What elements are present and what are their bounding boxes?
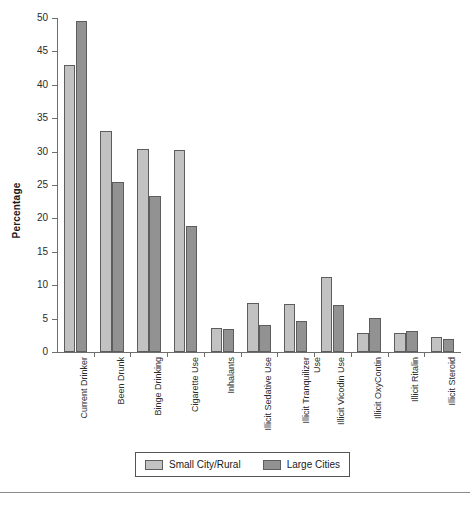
bar [284,304,296,352]
bar [223,329,235,352]
bar [333,305,345,352]
x-axis-tick-label: Binge Drinking [153,357,167,447]
x-axis-tick-label: Illicit Vicodin Use [336,357,350,447]
chart-legend: Small City/Rural Large Cities [135,452,350,477]
y-axis-tick: 35 [52,118,57,119]
bar [369,318,381,352]
y-axis-tick: 30 [52,152,57,153]
x-axis-tick-label: Been Drunk [116,357,130,447]
footer-divider [0,492,470,493]
x-axis-tick [351,352,352,357]
legend-item-large-cities: Large Cities [263,459,340,471]
y-axis-tick: 20 [52,218,57,219]
x-axis-tick-label-line: Illicit Ritalin [410,357,420,402]
y-axis-line [57,18,58,352]
y-axis-tick-label: 15 [37,245,48,258]
x-axis-tick [167,352,168,357]
x-axis-tick-label-line: Illicit Steroid [447,357,457,406]
x-axis-tick-label: Illicit TranquilizerUse [301,357,315,447]
bar [259,325,271,352]
y-axis-tick-label: 40 [37,78,48,91]
y-axis-tick: 40 [52,85,57,86]
bar [149,196,161,352]
y-axis-tick-label: 30 [37,145,48,158]
bar-group [137,18,161,352]
x-axis-tick-label-line: Cigarette Use [190,357,200,412]
bar [321,277,333,352]
bar [247,303,259,352]
x-axis-tick-label-line: Inhalants [226,357,236,394]
x-axis-tick-label-line: Use [312,357,323,447]
x-axis-tick-label-line: Current Drinker [79,357,89,419]
x-axis-tick-label: Illicit Steroid [447,357,461,447]
x-axis-tick-label: Illicit Sedative Use [263,357,277,447]
bar-group [321,18,345,352]
x-axis-tick-label: Inhalants [226,357,240,447]
y-axis-tick: 0 [52,352,57,353]
x-axis-tick-label: Cigarette Use [190,357,204,447]
bar-group [211,18,235,352]
y-axis-tick: 15 [52,252,57,253]
y-axis-tick-label: 20 [37,211,48,224]
y-axis-tick-label: 35 [37,111,48,124]
legend-label: Small City/Rural [169,459,241,471]
x-axis-tick [130,352,131,357]
y-axis-tick-label: 10 [37,278,48,291]
x-axis-tick [204,352,205,357]
x-axis-tick [94,352,95,357]
y-axis-tick: 45 [52,51,57,52]
bar [100,131,112,352]
bar [357,333,369,352]
legend-label: Large Cities [287,459,340,471]
x-axis-tick-label-line: Illicit Vicodin Use [336,357,346,425]
bar [174,150,186,352]
bar [431,337,443,352]
y-axis-tick: 25 [52,185,57,186]
x-axis-tick-label-line: Been Drunk [116,357,126,405]
y-axis-tick-label: 50 [37,11,48,24]
bar-group [357,18,381,352]
legend-item-small-city-rural: Small City/Rural [145,459,241,471]
legend-swatch-icon [145,460,163,470]
y-axis-tick: 50 [52,18,57,19]
x-axis-tick-label-line: Illicit Tranquilizer [301,357,312,447]
x-axis-line [57,352,461,353]
bar-group [100,18,124,352]
x-axis-tick-label-line: Illicit OxyContin [373,357,383,419]
bar [296,321,308,352]
bar [64,65,76,352]
bar-group [174,18,198,352]
bar [394,333,406,352]
y-axis-title-text: Percentage [12,182,23,238]
bar [406,331,418,352]
plot-area: 05101520253035404550 [57,18,461,352]
bar-chart-figure: Percentage 05101520253035404550 Current … [0,0,470,506]
bar [112,182,124,352]
bar [211,328,223,352]
legend-swatch-icon [263,460,281,470]
x-axis-tick [388,352,389,357]
x-axis-tick [277,352,278,357]
x-axis-tick-label-line: Binge Drinking [153,357,163,416]
y-axis-tick-label: 25 [37,178,48,191]
y-axis-tick-label: 45 [37,44,48,57]
x-axis-tick-label-line: Illicit Sedative Use [263,357,273,431]
bar [76,21,88,352]
y-axis-tick: 10 [52,285,57,286]
x-axis-tick-label: Current Drinker [79,357,93,447]
bar-group [431,18,455,352]
bar [443,339,455,352]
bar-group [64,18,88,352]
y-axis-title: Percentage [6,150,28,270]
x-axis-tick [424,352,425,357]
bar [137,149,149,352]
bar-group [394,18,418,352]
y-axis-tick-label: 5 [42,312,48,325]
bar-group [284,18,308,352]
x-axis-tick-label: Illicit Ritalin [410,357,424,447]
bar-group [247,18,271,352]
y-axis-tick-label: 0 [42,345,48,358]
x-axis-tick-label: Illicit OxyContin [373,357,387,447]
y-axis-tick: 5 [52,319,57,320]
x-axis-tick [241,352,242,357]
